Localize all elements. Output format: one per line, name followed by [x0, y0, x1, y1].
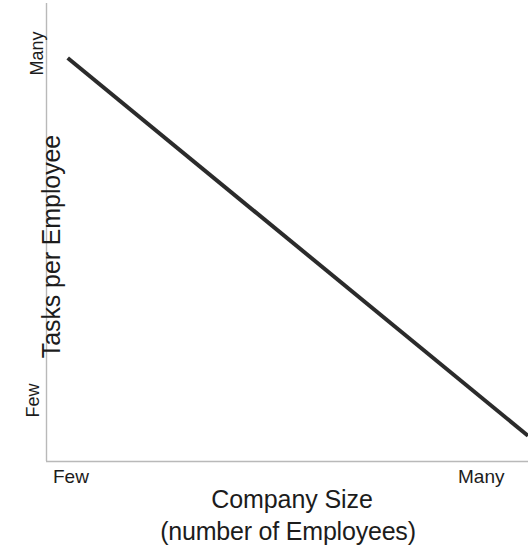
y-axis-tick-label-few: Few — [23, 355, 44, 447]
y-axis-tick-label-many: Many — [27, 8, 48, 100]
chart-figure: Tasks per Employee Many Few Few Many Com… — [0, 0, 528, 552]
x-axis-subtitle: (number of Employees) — [0, 517, 528, 546]
x-axis-title: Company Size — [0, 485, 528, 514]
data-line-series-1 — [68, 58, 528, 436]
